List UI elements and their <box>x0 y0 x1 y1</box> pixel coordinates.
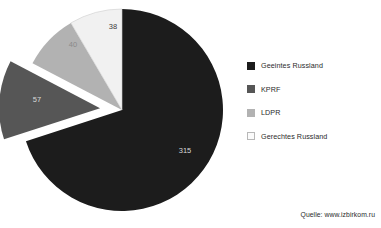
legend-swatch-icon <box>247 109 255 117</box>
legend-swatch-icon <box>247 132 255 140</box>
source-note: Quelle: www.izbirkom.ru <box>301 211 375 218</box>
legend-item-kprf[interactable]: KPRF <box>247 85 379 94</box>
pie-chart-plot-area: 315574038 <box>0 0 240 220</box>
pie-slice-group <box>0 9 223 211</box>
legend-swatch-icon <box>247 62 255 70</box>
chart-legend: Geeintes Russland KPRF LDPR Gerechtes Ru… <box>247 61 379 155</box>
legend-item-label: LDPR <box>261 108 280 117</box>
pie-slice-value-label: 315 <box>179 146 192 155</box>
legend-item-gerechtes-russland[interactable]: Gerechtes Russland <box>247 132 379 141</box>
pie-slice-value-label: 57 <box>33 95 41 104</box>
pie-slice-value-label: 40 <box>69 40 77 49</box>
legend-item-label: KPRF <box>261 85 280 94</box>
legend-item-ldpr[interactable]: LDPR <box>247 108 379 117</box>
pie-chart-svg: 315574038 <box>0 0 240 220</box>
legend-item-label: Geeintes Russland <box>261 61 323 70</box>
legend-swatch-icon <box>247 85 255 93</box>
pie-slice-value-label: 38 <box>109 22 117 31</box>
legend-item-label: Gerechtes Russland <box>261 132 327 141</box>
legend-item-geeintes-russland[interactable]: Geeintes Russland <box>247 61 379 70</box>
pie-chart-figure: 315574038 Geeintes Russland KPRF LDPR Ge… <box>0 0 381 228</box>
